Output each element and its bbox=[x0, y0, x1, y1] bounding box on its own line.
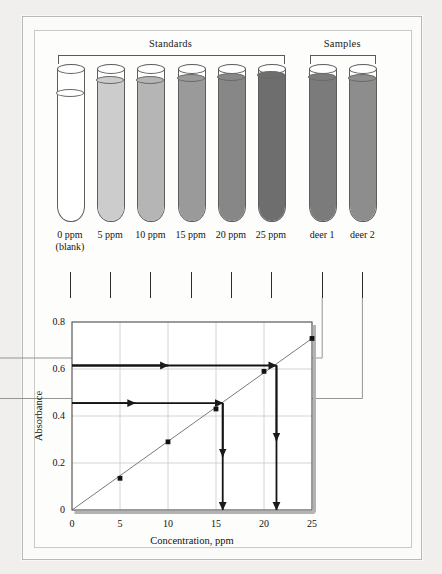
tube-5ppm-body bbox=[97, 68, 125, 222]
tube-deer2-drop-line bbox=[362, 272, 363, 298]
standards-group-label: Standards bbox=[58, 38, 283, 49]
tube-25ppm-drop-line bbox=[271, 272, 272, 298]
standards-bracket bbox=[58, 55, 285, 64]
tube-deer2-label: deer 2 bbox=[332, 229, 392, 241]
tube-deer2-body bbox=[349, 68, 377, 222]
figure-root: 0 ppm (blank)5 ppm10 ppm15 ppm20 ppm25 p… bbox=[0, 0, 442, 574]
tube-0ppm-meniscus bbox=[56, 89, 84, 97]
tube-15ppm-body bbox=[178, 68, 206, 222]
tube-5ppm-meniscus bbox=[96, 76, 124, 84]
tube-deer1-liquid bbox=[310, 77, 336, 221]
samples-group-label: Samples bbox=[310, 38, 374, 49]
tube-5ppm-drop-line bbox=[110, 272, 111, 298]
tube-20ppm-drop-line bbox=[231, 272, 232, 298]
tube-deer1-body bbox=[309, 68, 337, 222]
tube-rack: 0 ppm (blank)5 ppm10 ppm15 ppm20 ppm25 p… bbox=[0, 0, 442, 300]
tube-20ppm-body bbox=[218, 68, 246, 222]
tube-0ppm-rim bbox=[57, 64, 85, 74]
tube-15ppm-liquid bbox=[179, 78, 205, 221]
tube-5ppm-rim bbox=[97, 64, 125, 74]
tube-deer1-meniscus bbox=[308, 73, 336, 81]
tube-25ppm-liquid bbox=[259, 75, 285, 221]
tube-10ppm-drop-line bbox=[150, 272, 151, 298]
tube-deer2-liquid bbox=[350, 78, 376, 221]
tube-deer1-drop-line bbox=[322, 272, 323, 298]
tube-0ppm-drop-line bbox=[70, 272, 71, 298]
tube-5ppm-liquid bbox=[98, 80, 124, 221]
tube-15ppm-meniscus bbox=[177, 74, 205, 82]
tube-20ppm-liquid bbox=[219, 77, 245, 221]
tube-10ppm-body bbox=[137, 68, 165, 222]
samples-bracket bbox=[310, 55, 376, 64]
tube-10ppm-meniscus bbox=[136, 76, 164, 84]
tube-20ppm-meniscus bbox=[217, 73, 245, 81]
tube-25ppm-body bbox=[258, 68, 286, 222]
tube-15ppm-drop-line bbox=[191, 272, 192, 298]
tube-15ppm-rim bbox=[178, 64, 206, 74]
tube-10ppm-liquid bbox=[138, 80, 164, 221]
